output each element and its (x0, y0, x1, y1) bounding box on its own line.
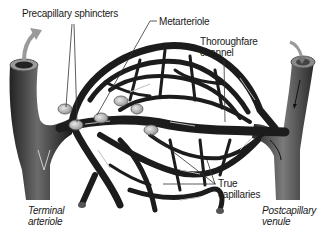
capillary-bed-illustration (0, 0, 327, 237)
postcapillary-venule-vessel (252, 42, 315, 200)
capillary-bed-diagram: Precapillary sphincters Metarteriole Tho… (0, 0, 327, 237)
label-true-capillaries-line2: capillaries (218, 189, 260, 200)
capillary-stub-end (78, 202, 86, 208)
sphincter (144, 125, 158, 135)
label-postcapillary-venule: Postcapillary venule (262, 205, 316, 227)
sphincter (94, 113, 108, 123)
label-true-capillaries-line1: True (218, 178, 260, 189)
sphincter (131, 104, 143, 114)
sphincter (69, 120, 83, 130)
sphincter (114, 96, 128, 106)
sphincter (58, 104, 72, 114)
label-terminal-arteriole-line2: arteriole (28, 216, 64, 227)
label-thoroughfare-line2: channel (200, 47, 258, 58)
label-terminal-arteriole: Terminal arteriole (28, 205, 64, 227)
label-thoroughfare-line1: Thoroughfare (200, 36, 258, 47)
label-terminal-arteriole-line1: Terminal (28, 205, 64, 216)
label-metarteriole: Metarteriole (159, 16, 209, 27)
label-postcapillary-venule-line1: Postcapillary (262, 205, 316, 216)
capillary-stub-end (216, 208, 224, 214)
label-postcapillary-venule-line2: venule (262, 216, 316, 227)
label-true-capillaries: True capillaries (218, 178, 260, 200)
label-thoroughfare-channel: Thoroughfare channel (200, 36, 258, 58)
label-precapillary-sphincters: Precapillary sphincters (22, 8, 118, 19)
